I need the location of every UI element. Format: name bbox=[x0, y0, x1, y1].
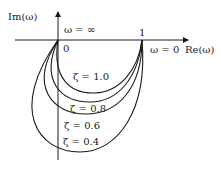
omega-infinity-label: ω = ∞ bbox=[64, 24, 95, 35]
curve-label-zeta-0-4: ζ = 0.4 bbox=[63, 136, 99, 147]
y-axis-label: Im(ω) bbox=[8, 11, 37, 22]
x-axis-label: Re(ω) bbox=[185, 44, 215, 55]
curve-label-zeta-1-0: ζ = 1.0 bbox=[73, 71, 109, 82]
curve-zeta-1-0 bbox=[57, 40, 142, 93]
curve-label-zeta-0-8: ζ = 0.8 bbox=[70, 103, 106, 114]
unit-point-label: 1 bbox=[139, 27, 145, 38]
curve-label-zeta-0-6: ζ = 0.6 bbox=[64, 120, 100, 131]
origin-label: 0 bbox=[63, 43, 69, 54]
omega-zero-label: ω = 0 bbox=[150, 44, 179, 55]
nyquist-diagram: Im(ω) ω = ∞ 0 1 ω = 0 Re(ω) ζ = 1.0 ζ = … bbox=[0, 0, 221, 172]
